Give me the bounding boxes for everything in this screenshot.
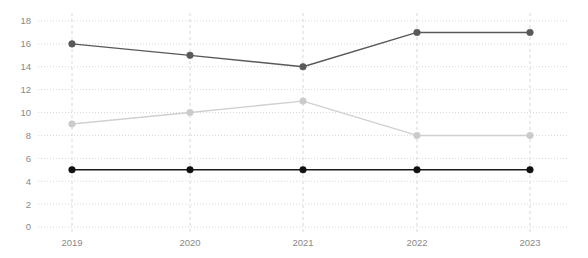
x-tick-label: 2022 bbox=[406, 237, 427, 248]
series-series-dark-gray bbox=[69, 29, 534, 70]
y-tick-label: 8 bbox=[26, 130, 31, 141]
data-point-marker[interactable] bbox=[527, 132, 534, 139]
series-series-black bbox=[69, 166, 534, 173]
data-point-marker[interactable] bbox=[300, 166, 307, 173]
data-point-marker[interactable] bbox=[69, 41, 76, 48]
data-point-marker[interactable] bbox=[69, 121, 76, 128]
y-tick-label: 10 bbox=[20, 107, 31, 118]
x-tick-label: 2020 bbox=[179, 237, 200, 248]
series-line bbox=[72, 32, 530, 66]
data-point-marker[interactable] bbox=[300, 98, 307, 105]
y-tick-label: 4 bbox=[26, 176, 31, 187]
data-point-marker[interactable] bbox=[527, 166, 534, 173]
y-tick-label: 18 bbox=[20, 15, 31, 26]
y-tick-label: 2 bbox=[26, 199, 31, 210]
data-point-marker[interactable] bbox=[414, 132, 421, 139]
y-tick-label: 16 bbox=[20, 38, 31, 49]
x-tick-label: 2019 bbox=[61, 237, 82, 248]
series-line bbox=[72, 101, 530, 135]
grid-lines bbox=[38, 13, 568, 233]
chart-canvas: 02468101214161820192020202120222023 bbox=[0, 0, 588, 258]
x-tick-label: 2021 bbox=[292, 237, 313, 248]
data-point-marker[interactable] bbox=[187, 166, 194, 173]
y-tick-label: 12 bbox=[20, 84, 31, 95]
data-point-marker[interactable] bbox=[187, 109, 194, 116]
y-axis-ticks: 024681012141618 bbox=[20, 15, 31, 232]
y-tick-label: 14 bbox=[20, 61, 31, 72]
data-point-marker[interactable] bbox=[300, 63, 307, 70]
data-point-marker[interactable] bbox=[527, 29, 534, 36]
y-tick-label: 0 bbox=[26, 221, 31, 232]
data-point-marker[interactable] bbox=[69, 166, 76, 173]
x-tick-label: 2023 bbox=[519, 237, 540, 248]
data-point-marker[interactable] bbox=[414, 29, 421, 36]
series-series-light-gray bbox=[69, 98, 534, 139]
line-chart: 02468101214161820192020202120222023 bbox=[0, 0, 588, 258]
data-point-marker[interactable] bbox=[414, 166, 421, 173]
data-point-marker[interactable] bbox=[187, 52, 194, 59]
y-tick-label: 6 bbox=[26, 153, 31, 164]
x-axis-ticks: 20192020202120222023 bbox=[61, 237, 540, 248]
